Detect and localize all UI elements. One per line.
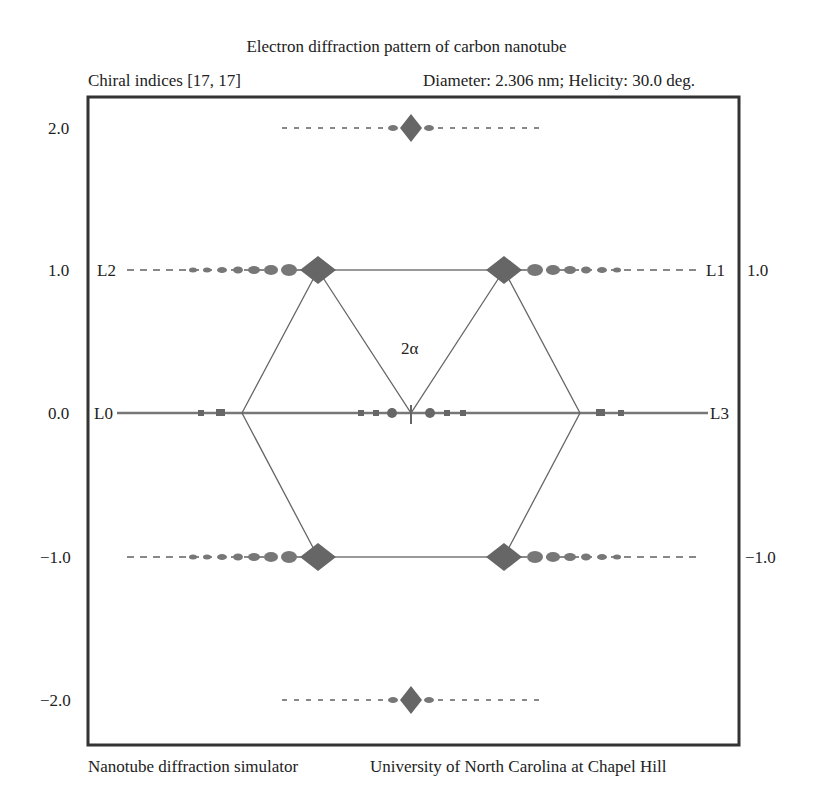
y-tick-right-1: 1.0 [747,262,768,279]
diffraction-plot [0,0,813,792]
layer-line-minus-1 [127,543,700,571]
y-tick-0: 0.0 [48,405,69,422]
y-tick-right-minus-1: −1.0 [745,549,776,566]
layer-line-2 [282,114,545,142]
plot-frame [88,97,739,745]
layer-label-l2: L2 [97,262,116,279]
y-tick-minus-2: −2.0 [40,692,71,709]
layer-line-1 [127,256,700,284]
layer-label-l3: L3 [710,405,729,422]
layer-line-0 [117,405,708,424]
layer-label-l0: L0 [94,405,113,422]
y-tick-1: 1.0 [48,262,69,279]
layer-label-l1: L1 [706,262,725,279]
footer-institution: University of North Carolina at Chapel H… [370,758,667,775]
footer-simulator: Nanotube diffraction simulator [88,758,298,775]
y-tick-minus-1: −1.0 [40,549,71,566]
angle-annotation: 2α [401,340,418,357]
y-tick-2: 2.0 [48,120,69,137]
layer-line-minus-2 [282,686,545,714]
